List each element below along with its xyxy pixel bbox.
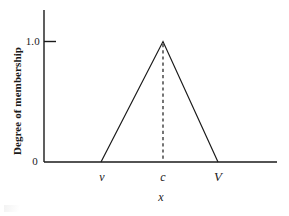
x-tick-label-v: v bbox=[92, 170, 112, 185]
x-tick-label-V-upper: V bbox=[208, 169, 228, 185]
x-tick-label-c: c bbox=[153, 170, 173, 185]
membership-function-figure: 1.0 0 v c V x Degree of membership bbox=[0, 0, 289, 216]
plot-canvas bbox=[0, 0, 289, 216]
y-tick-label-0: 0 bbox=[22, 155, 38, 167]
y-axis-title: Degree of membership bbox=[11, 41, 23, 161]
x-axis-title: x bbox=[150, 190, 172, 205]
scan-artifact bbox=[4, 205, 30, 212]
y-tick-label-1: 1.0 bbox=[20, 35, 40, 47]
membership-triangle bbox=[101, 42, 218, 163]
